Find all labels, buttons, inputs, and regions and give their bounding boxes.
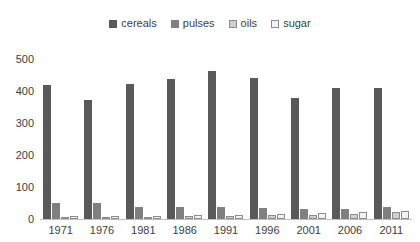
bar-cereals-1996[interactable]: [250, 78, 258, 219]
bar-pulses-2011[interactable]: [383, 207, 391, 219]
bar-sugar-2011[interactable]: [401, 211, 409, 219]
bar-group: [81, 59, 122, 219]
x-axis-tick: 1996: [255, 224, 279, 237]
plot-area: [40, 59, 412, 219]
x-axis-tick: 1991: [214, 224, 238, 237]
bar-group: [371, 59, 412, 219]
legend-item-sugar[interactable]: sugar: [271, 18, 311, 29]
x-axis-tick: 1981: [131, 224, 155, 237]
bar-pulses-1996[interactable]: [259, 208, 267, 219]
x-axis-tick: 2006: [338, 224, 362, 237]
bar-cereals-1991[interactable]: [208, 71, 216, 219]
x-axis-tick: 1971: [48, 224, 72, 237]
bar-pulses-2006[interactable]: [341, 209, 349, 219]
legend-item-cereals[interactable]: cereals: [109, 18, 156, 29]
legend-swatch-icon: [109, 20, 117, 28]
legend-item-pulses[interactable]: pulses: [171, 18, 215, 29]
y-axis: 0100200300400500: [0, 59, 34, 219]
bar-pulses-1986[interactable]: [176, 207, 184, 219]
bar-cereals-1986[interactable]: [167, 79, 175, 219]
bar-group: [288, 59, 329, 219]
bar-cereals-1971[interactable]: [43, 85, 51, 219]
legend-label: pulses: [183, 18, 215, 29]
legend-label: oils: [241, 18, 258, 29]
bar-cereals-2001[interactable]: [291, 98, 299, 219]
chart-legend: cerealspulsesoilssugar: [0, 18, 420, 29]
bar-group: [40, 59, 81, 219]
bar-pulses-2001[interactable]: [300, 209, 308, 219]
legend-swatch-icon: [271, 20, 279, 28]
x-axis-line: [40, 219, 412, 220]
bar-pulses-1991[interactable]: [217, 207, 225, 219]
x-axis-tick: 1986: [172, 224, 196, 237]
legend-item-oils[interactable]: oils: [229, 18, 258, 29]
bar-pulses-1981[interactable]: [135, 207, 143, 219]
x-axis-tick: 2011: [380, 224, 404, 237]
y-axis-tick: 300: [16, 118, 34, 129]
bar-oils-2011[interactable]: [392, 212, 400, 219]
bar-group: [164, 59, 205, 219]
y-axis-tick: 0: [28, 214, 34, 225]
bar-pulses-1976[interactable]: [93, 203, 101, 219]
y-axis-tick: 100: [16, 182, 34, 193]
y-axis-tick: 400: [16, 86, 34, 97]
legend-label: sugar: [283, 18, 311, 29]
bar-cereals-2006[interactable]: [332, 88, 340, 219]
bar-chart: cerealspulsesoilssugar 0100200300400500 …: [0, 0, 420, 242]
legend-swatch-icon: [229, 20, 237, 28]
bar-pulses-1971[interactable]: [52, 203, 60, 219]
bar-sugar-2006[interactable]: [359, 212, 367, 219]
bar-group: [247, 59, 288, 219]
legend-label: cereals: [121, 18, 156, 29]
bar-cereals-1981[interactable]: [126, 84, 134, 219]
y-axis-tick: 200: [16, 150, 34, 161]
bar-group: [123, 59, 164, 219]
bar-group: [329, 59, 370, 219]
bar-cereals-2011[interactable]: [374, 88, 382, 219]
bar-group: [205, 59, 246, 219]
y-axis-tick: 500: [16, 54, 34, 65]
bar-cereals-1976[interactable]: [84, 100, 92, 219]
x-axis-tick: 2001: [296, 224, 320, 237]
x-axis: 197119761981198619911996200120062011: [40, 224, 412, 240]
x-axis-tick: 1976: [90, 224, 114, 237]
legend-swatch-icon: [171, 20, 179, 28]
